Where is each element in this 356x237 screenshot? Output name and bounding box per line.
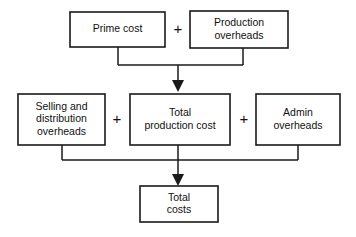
- operator-plus-left: +: [113, 110, 122, 127]
- boxes-layer: Prime costProductionoverheadsSelling and…: [18, 11, 340, 222]
- diagram-canvas: Prime costProductionoverheadsSelling and…: [0, 0, 356, 237]
- box-label-selling-and-distribution-overheads: distribution: [36, 112, 87, 124]
- operator-plus-top: +: [174, 20, 183, 37]
- box-label-production-overheads: Production: [214, 16, 264, 28]
- box-label-production-overheads: overheads: [214, 29, 263, 41]
- box-label-admin-overheads: overheads: [273, 119, 322, 131]
- box-admin-overheads: Adminoverheads: [256, 94, 340, 145]
- box-label-total-costs: Total: [168, 191, 190, 203]
- box-label-total-production-cost: Total: [169, 106, 191, 118]
- box-production-overheads: Productionoverheads: [190, 11, 288, 48]
- operator-plus-right: +: [240, 110, 249, 127]
- arrow-to-total-costs: [172, 174, 184, 186]
- box-label-prime-cost: Prime cost: [93, 22, 143, 34]
- box-selling-and-distribution-overheads: Selling anddistributionoverheads: [18, 94, 105, 145]
- box-label-total-production-cost: production cost: [144, 119, 215, 131]
- box-label-admin-overheads: Admin: [283, 106, 313, 118]
- box-label-selling-and-distribution-overheads: overheads: [37, 125, 86, 137]
- box-total-production-cost: Totalproduction cost: [130, 94, 230, 145]
- box-total-costs: Totalcosts: [140, 186, 218, 222]
- box-label-selling-and-distribution-overheads: Selling and: [36, 100, 88, 112]
- arrow-to-total-production-cost: [172, 80, 184, 92]
- box-prime-cost: Prime cost: [70, 12, 165, 47]
- box-label-total-costs: costs: [167, 203, 192, 215]
- cost-flow-diagram: Prime costProductionoverheadsSelling and…: [0, 0, 356, 237]
